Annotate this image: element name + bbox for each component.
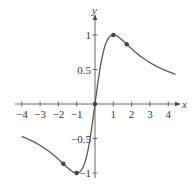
x-tick-label: 3 <box>147 108 153 120</box>
x-axis-label: x <box>181 98 187 110</box>
marked-point <box>61 162 65 166</box>
marked-point <box>124 42 128 46</box>
x-tick-label: −3 <box>34 108 46 120</box>
y-tick-label: 1 <box>86 29 92 41</box>
y-tick-label: −0.5 <box>71 133 91 145</box>
marked-point <box>111 33 115 37</box>
x-tick-label: −4 <box>16 108 28 120</box>
y-tick-label: −1 <box>79 167 91 179</box>
x-tick-label: 1 <box>111 108 117 120</box>
y-tick-label: 0.5 <box>77 64 91 76</box>
x-tick-label: 4 <box>165 108 171 120</box>
function-plot: x y −4−3−2−11234 10.5−0.5−1 <box>0 0 195 191</box>
x-tick-label: −1 <box>71 108 83 120</box>
marked-point <box>93 102 97 106</box>
x-tick-label: 2 <box>129 108 135 120</box>
y-axis-label: y <box>91 4 97 16</box>
marked-point <box>75 171 79 175</box>
x-tick-label: −2 <box>53 108 65 120</box>
